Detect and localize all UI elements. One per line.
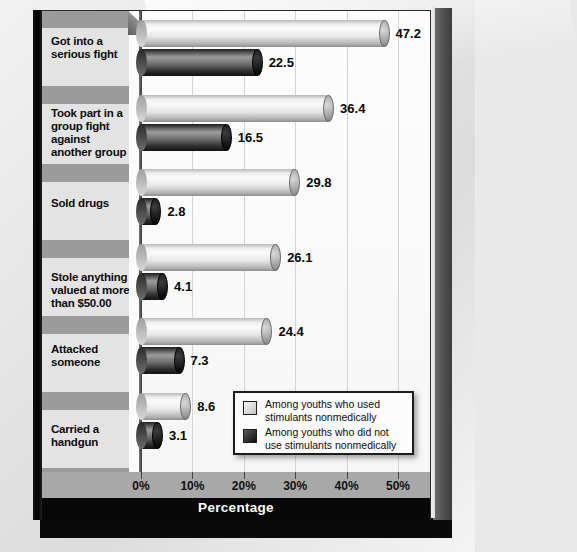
legend-label-used: Among youths who used stimulants nonmedi… (265, 398, 380, 423)
bar-value-label: 16.5 (238, 124, 263, 151)
label-band (42, 316, 129, 334)
bar-cap-left (136, 124, 147, 151)
label-band (42, 164, 129, 182)
bar-cap-left (136, 49, 147, 76)
bar-cap-left (136, 318, 147, 345)
x-axis-title: Percentage (42, 500, 430, 515)
x-axis-tick-label: 40% (335, 479, 359, 493)
bar (141, 198, 155, 225)
bar-value-label: 36.4 (340, 95, 365, 122)
board-left-spine (33, 10, 42, 520)
bar-value-label: 4.1 (174, 273, 192, 300)
label-band (42, 86, 129, 104)
x-axis-tick-label: 0% (132, 479, 149, 493)
category-label: Carried a handgun (51, 423, 129, 449)
category-label: Stole anything valued at more than $50.0… (51, 271, 129, 310)
board-bevel-dark-edge (433, 8, 452, 520)
bar-body (141, 393, 185, 420)
x-axis-tick (244, 472, 245, 479)
bar (141, 124, 226, 151)
label-band (42, 240, 129, 258)
bar-body (141, 49, 257, 76)
bar (141, 347, 179, 374)
bar-value-label: 7.3 (191, 347, 209, 374)
bar (141, 273, 162, 300)
bar (141, 49, 257, 76)
bar-cap-right (174, 347, 185, 374)
gridline (192, 11, 193, 472)
category-label: Sold drugs (51, 197, 129, 210)
bar-cap-left (136, 198, 147, 225)
bar-body (141, 124, 226, 151)
x-axis-tick (347, 472, 348, 479)
legend-item-used: Among youths who used stimulants nonmedi… (243, 398, 380, 423)
category-label: Took part in a group fight against anoth… (51, 107, 129, 159)
bar-cap-right (323, 95, 334, 122)
bar-body (141, 244, 275, 271)
bar-body (141, 169, 294, 196)
x-axis-tick (192, 472, 193, 479)
bar-value-label: 26.1 (287, 244, 312, 271)
bar-value-label: 47.2 (396, 20, 421, 47)
x-axis-tick-label: 50% (386, 479, 410, 493)
bar-value-label: 8.6 (197, 393, 215, 420)
bar-value-label: 22.5 (269, 49, 294, 76)
x-axis-tick-label: 20% (232, 479, 256, 493)
bar-cap-left (136, 422, 147, 449)
bar-cap-right (152, 422, 163, 449)
bar-cap-right (180, 393, 191, 420)
x-axis-tick-label: 30% (283, 479, 307, 493)
bar-cap-right (157, 273, 168, 300)
label-band (42, 392, 129, 410)
category-label-column: Got into a serious fightTook part in a g… (42, 11, 129, 519)
bar-body (141, 20, 384, 47)
label-band (42, 11, 129, 28)
bar-value-label: 2.8 (167, 198, 185, 225)
legend-item-not-used: Among youths who did not use stimulants … (243, 426, 396, 451)
bar-cap-right (221, 124, 232, 151)
bar-cap-left (136, 95, 147, 122)
category-label: Attacked someone (51, 343, 129, 369)
bar (141, 20, 384, 47)
x-axis-tick (141, 472, 142, 479)
bar-cap-right (252, 49, 263, 76)
bar-value-label: 24.4 (278, 318, 303, 345)
legend-swatch-used (243, 401, 257, 415)
bar (141, 318, 266, 345)
bar-cap-left (136, 393, 147, 420)
bar-cap-right (270, 244, 281, 271)
legend-swatch-not-used (243, 429, 257, 443)
bar (141, 393, 185, 420)
bar-value-label: 3.1 (169, 422, 187, 449)
bar-body (141, 95, 328, 122)
bar-cap-left (136, 169, 147, 196)
bar (141, 169, 294, 196)
label-band (42, 182, 129, 240)
bar-value-label: 29.8 (306, 169, 331, 196)
bar-cap-left (136, 20, 147, 47)
bar-cap-left (136, 347, 147, 374)
bar-cap-left (136, 244, 147, 271)
category-label: Got into a serious fight (51, 35, 129, 61)
bar-body (141, 318, 266, 345)
x-axis-tick (295, 472, 296, 479)
x-axis-tick (398, 472, 399, 479)
bar-cap-right (379, 20, 390, 47)
bar (141, 244, 275, 271)
legend-label-not-used: Among youths who did not use stimulants … (265, 426, 396, 451)
chart-legend: Among youths who used stimulants nonmedi… (233, 391, 414, 455)
x-axis-tick-label: 10% (180, 479, 204, 493)
bar (141, 95, 328, 122)
bar-cap-left (136, 273, 147, 300)
bar (141, 422, 157, 449)
